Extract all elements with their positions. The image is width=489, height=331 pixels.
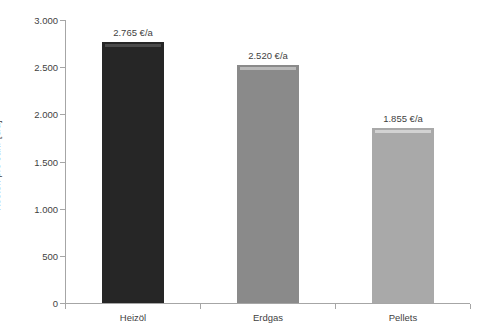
bar-value-label: 1.855 €/a <box>383 113 423 124</box>
category-label-erdgas: Erdgas <box>253 312 283 323</box>
y-tick-label: 0 <box>53 298 58 309</box>
y-tick-label: 1.000 <box>34 203 58 214</box>
bar-value-label: 2.520 €/a <box>248 50 288 61</box>
bar-top-highlight <box>240 67 296 70</box>
bar-chart: Kosten pro Jahr [€/a] 3.0002.5002.0001.5… <box>0 0 489 331</box>
x-tick-mark <box>335 304 336 309</box>
y-tick-label: 2.000 <box>34 109 58 120</box>
bar-top-highlight <box>375 130 431 133</box>
y-tick-label: 3.000 <box>34 15 58 26</box>
plot-area: 3.0002.5002.0001.5001.0005000 2.765 €/a2… <box>65 20 470 304</box>
bar-erdgas[interactable]: 2.520 €/a <box>237 65 299 303</box>
bar-pellets[interactable]: 1.855 €/a <box>372 128 434 303</box>
bar-heizöl[interactable]: 2.765 €/a <box>102 42 164 303</box>
y-axis-title: Kosten pro Jahr [€/a] <box>0 0 22 331</box>
y-tick-label: 1.500 <box>34 156 58 167</box>
x-tick-mark <box>200 304 201 309</box>
y-axis-line <box>65 20 66 304</box>
y-tick-mark <box>60 162 65 163</box>
y-tick-mark <box>60 20 65 21</box>
y-tick-label: 500 <box>42 250 58 261</box>
y-axis-title-text: Kosten pro Jahr [€/a] <box>0 120 32 210</box>
bar-body <box>372 128 434 303</box>
bar-top-highlight <box>105 44 161 47</box>
y-tick-mark <box>60 67 65 68</box>
y-tick-mark <box>60 209 65 210</box>
bar-body <box>237 65 299 303</box>
y-tick-mark <box>60 256 65 257</box>
x-axis-line <box>65 303 470 304</box>
bar-value-label: 2.765 €/a <box>113 27 153 38</box>
x-tick-mark <box>65 304 66 309</box>
bar-body <box>102 42 164 303</box>
x-tick-mark <box>470 304 471 309</box>
category-label-heizöl: Heizöl <box>120 312 146 323</box>
y-tick-mark <box>60 114 65 115</box>
y-tick-label: 2.500 <box>34 62 58 73</box>
category-label-pellets: Pellets <box>389 312 418 323</box>
